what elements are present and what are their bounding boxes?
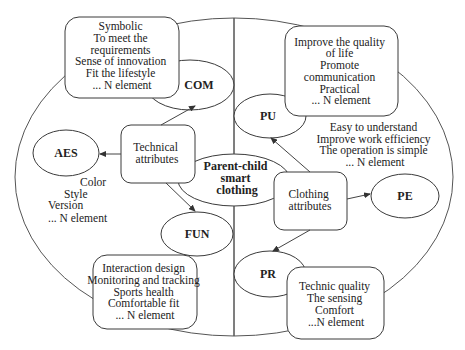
hub-technical-attributes-label: Technical attributes [133,141,180,165]
node-aes: AES [33,130,99,176]
node-aes-label: AES [54,146,78,160]
node-pu-label: PU [260,109,276,123]
fun-elements-box: Interaction design Monitoring and tracki… [87,255,202,329]
node-pr-label: PR [260,267,276,281]
aes-elements-text: Color Style Version ... N element [48,176,109,224]
hub-clothing-attributes: Clothing attributes [274,172,347,230]
node-fun: FUN [161,212,233,256]
hub-clothing-attributes-label: Clothing attributes [288,188,331,212]
node-pe-label: PE [397,189,412,203]
arrow-clothing-to-pr [273,230,310,251]
node-pe: PE [371,174,439,218]
pe-elements-text: Easy to understand Improve work efficien… [317,121,434,168]
hub-technical-attributes: Technical attributes [121,125,195,183]
com-elements-box: Symbolic To meet the requirements Sense … [65,17,179,98]
arrow-clothing-to-pe [347,194,370,199]
node-com-label: COM [184,78,213,92]
pu-elements-box: Improve the quality of life Promote comm… [285,26,398,116]
node-fun-label: FUN [185,227,210,241]
pr-elements-box: Technic quality The sensing Comfort ...N… [287,267,384,339]
parent-child-smart-clothing-diagram: COM Symbolic To meet the requirements Se… [0,0,465,350]
